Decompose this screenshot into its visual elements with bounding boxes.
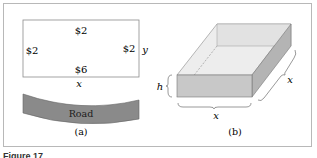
left-cost: $2 [26, 45, 39, 56]
height-brace [166, 75, 172, 97]
figure-canvas: $2 $2 $2 $6 x y Road (a) h x x (b) [0, 0, 317, 158]
top-cost: $2 [75, 25, 88, 36]
panel-b: h x x (b) [157, 24, 296, 137]
height-variable: y [141, 44, 148, 55]
width-variable: x [76, 78, 82, 89]
box-front-face [177, 75, 252, 97]
road-label: Road [69, 108, 94, 119]
figure-caption: Figure 17 [3, 151, 43, 158]
box-depth-variable: x [287, 74, 293, 85]
right-cost: $2 [123, 43, 136, 54]
panel-a: $2 $2 $2 $6 x y Road (a) [23, 20, 148, 137]
box-width-variable: x [213, 110, 219, 121]
width-brace [178, 103, 251, 109]
panel-a-label: (a) [74, 126, 87, 137]
panel-b-label: (b) [228, 126, 242, 137]
bottom-cost: $6 [75, 64, 88, 75]
box-height-variable: h [157, 81, 163, 92]
